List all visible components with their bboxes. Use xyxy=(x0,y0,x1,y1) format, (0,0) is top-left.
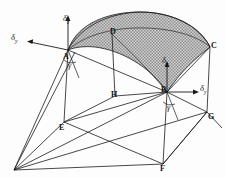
vertex-label-g: G xyxy=(208,113,214,121)
vertex-label-d: D xyxy=(110,28,116,36)
vertex-label-f: F xyxy=(160,165,165,173)
vertex-label-c: C xyxy=(211,42,217,50)
delta-subscript: z xyxy=(67,19,69,25)
figure-canvas: A B C D E F G H δz δy δz δy γ γ xyxy=(0,0,225,177)
base-plane xyxy=(64,92,207,164)
axis-label-delta-z-a: δz xyxy=(63,14,69,25)
axis-label-delta-y-a: δy xyxy=(11,33,17,44)
axis-label-delta-y-b: δy xyxy=(200,84,206,95)
vertex-label-b: B xyxy=(161,86,166,94)
delta-subscript: y xyxy=(15,38,17,44)
angle-label-gamma-b: γ xyxy=(167,104,170,112)
vertex-label-h: H xyxy=(111,91,117,99)
axis-label-delta-z-b: δz xyxy=(162,56,168,67)
delta-subscript: y xyxy=(204,89,206,95)
vertex-label-e: E xyxy=(59,124,64,132)
angle-label-gamma-a: γ xyxy=(68,62,71,70)
vertex-label-a: A xyxy=(63,53,69,61)
delta-subscript: z xyxy=(166,61,168,67)
